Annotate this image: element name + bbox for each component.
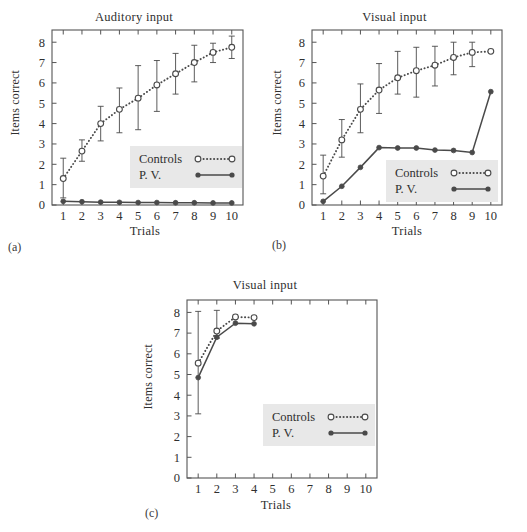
legend-label-pv: P. V. xyxy=(395,182,417,196)
x-tick-label: 1 xyxy=(320,209,326,223)
x-tick-label: 5 xyxy=(270,482,276,496)
data-point-pv xyxy=(196,375,201,380)
series-line-pv xyxy=(63,201,232,203)
y-tick-label: 0 xyxy=(299,198,305,212)
x-tick-label: 5 xyxy=(135,209,141,223)
data-point-controls xyxy=(60,176,66,182)
data-point-controls xyxy=(339,137,345,143)
x-tick-label: 6 xyxy=(154,209,160,223)
data-point-controls xyxy=(413,68,419,74)
y-tick-label: 1 xyxy=(39,178,45,192)
panel-b-label: (b) xyxy=(272,238,286,253)
x-tick-label: 7 xyxy=(432,209,438,223)
data-point-pv xyxy=(117,200,122,205)
data-point-controls xyxy=(154,82,160,88)
data-point-pv xyxy=(214,335,219,340)
data-point-pv xyxy=(321,199,326,204)
legend-marker-controls-left xyxy=(328,414,334,420)
x-tick-label: 9 xyxy=(469,209,475,223)
legend: ControlsP. V. xyxy=(130,146,242,188)
data-point-controls xyxy=(210,49,216,55)
x-tick-label: 2 xyxy=(79,209,85,223)
panel-b-plot: 12345678910012345678ControlsP. V. xyxy=(262,0,527,262)
y-tick-label: 8 xyxy=(174,306,180,320)
data-point-controls xyxy=(229,44,235,50)
figure-panel-a: Auditory input Items correct 12345678910… xyxy=(0,0,268,262)
y-tick-label: 2 xyxy=(299,158,305,172)
data-point-pv xyxy=(229,201,234,206)
legend-marker-controls-right xyxy=(362,414,368,420)
x-tick-label: 7 xyxy=(307,482,313,496)
legend-marker-pv-left xyxy=(451,186,456,191)
data-point-pv xyxy=(433,148,438,153)
legend-label-pv: P. V. xyxy=(139,168,161,182)
y-tick-label: 6 xyxy=(299,76,305,90)
legend-marker-pv-left xyxy=(328,430,333,435)
x-tick-label: 6 xyxy=(413,209,419,223)
x-tick-label: 9 xyxy=(344,482,350,496)
data-point-pv xyxy=(173,200,178,205)
data-point-pv xyxy=(451,148,456,153)
legend-marker-controls-right xyxy=(229,156,235,162)
y-tick-label: 7 xyxy=(299,56,305,70)
data-point-controls xyxy=(214,328,220,334)
y-tick-label: 4 xyxy=(299,117,306,131)
plot-frame xyxy=(187,300,377,478)
x-tick-label: 7 xyxy=(172,209,178,223)
y-tick-label: 5 xyxy=(299,97,305,111)
data-point-pv xyxy=(80,199,85,204)
y-tick-label: 2 xyxy=(39,158,45,172)
x-tick-label: 3 xyxy=(232,482,238,496)
y-tick-label: 5 xyxy=(174,368,180,382)
y-tick-label: 0 xyxy=(39,198,45,212)
data-point-pv xyxy=(339,184,344,189)
y-tick-label: 4 xyxy=(174,389,181,403)
data-point-pv xyxy=(61,199,66,204)
legend-marker-pv-right xyxy=(229,172,234,177)
data-point-pv xyxy=(233,321,238,326)
panel-a-label: (a) xyxy=(8,240,21,255)
panel-c-label: (c) xyxy=(145,506,158,521)
data-point-controls xyxy=(135,95,141,101)
data-point-controls xyxy=(395,75,401,81)
data-point-controls xyxy=(488,48,494,54)
data-point-controls xyxy=(376,87,382,93)
figure-panel-b: Visual input Items correct 1234567891001… xyxy=(262,0,527,262)
x-tick-label: 4 xyxy=(116,209,123,223)
data-point-controls xyxy=(195,360,201,366)
y-tick-label: 7 xyxy=(39,56,45,70)
y-tick-label: 7 xyxy=(174,326,180,340)
legend-marker-pv-right xyxy=(362,430,367,435)
legend-label-controls: Controls xyxy=(395,166,438,180)
y-tick-label: 1 xyxy=(174,451,180,465)
data-point-pv xyxy=(414,146,419,151)
data-point-controls xyxy=(79,148,85,154)
x-tick-label: 5 xyxy=(395,209,401,223)
x-tick-label: 3 xyxy=(357,209,363,223)
figure-panel-c: Visual input Items correct 1234567891001… xyxy=(131,266,399,532)
y-tick-label: 3 xyxy=(174,409,180,423)
data-point-pv xyxy=(192,200,197,205)
legend-marker-pv-left xyxy=(195,172,200,177)
data-point-pv xyxy=(470,150,475,155)
x-tick-label: 8 xyxy=(191,209,197,223)
x-tick-label: 2 xyxy=(214,482,220,496)
data-point-controls xyxy=(117,106,123,112)
data-point-pv xyxy=(136,200,141,205)
panel-a-x-axis-label: Trials xyxy=(45,224,245,239)
y-tick-label: 6 xyxy=(174,347,180,361)
x-tick-label: 1 xyxy=(60,209,66,223)
data-point-pv xyxy=(377,145,382,150)
legend-label-pv: P. V. xyxy=(272,426,294,440)
data-point-controls xyxy=(233,314,239,320)
data-point-pv xyxy=(252,321,257,326)
legend-marker-controls-right xyxy=(485,170,491,176)
series-line-controls xyxy=(323,51,491,176)
x-tick-label: 10 xyxy=(485,209,498,223)
legend-marker-pv-right xyxy=(485,186,490,191)
series-line-pv xyxy=(198,323,254,377)
y-tick-label: 3 xyxy=(39,137,45,151)
data-point-pv xyxy=(211,201,216,206)
data-point-controls xyxy=(432,62,438,68)
y-tick-label: 0 xyxy=(174,471,180,485)
